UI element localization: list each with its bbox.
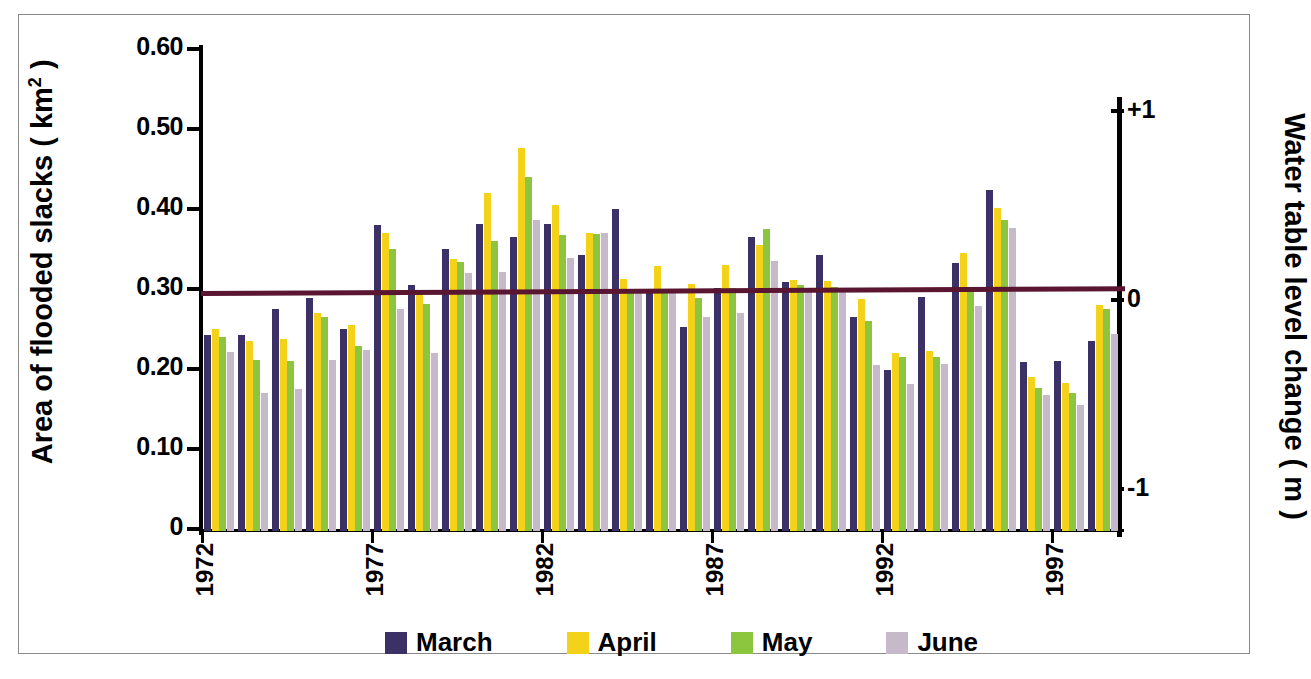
bar-may-1991 — [865, 321, 872, 531]
x-tick — [711, 530, 714, 543]
bar-april-1973 — [246, 341, 253, 531]
bar-june-1993 — [941, 364, 948, 531]
bar-june-1977 — [397, 309, 404, 531]
bar-may-1992 — [899, 357, 906, 531]
bar-may-1988 — [763, 229, 770, 531]
y-tick-label: 0 — [115, 512, 183, 541]
bar-may-1982 — [559, 235, 566, 531]
bar-april-1981 — [518, 148, 525, 531]
y-axis-title-pre: Area of flooded slacks ( km — [26, 87, 58, 464]
legend-swatch-april — [567, 632, 589, 654]
y2-tick-label: +1 — [1127, 95, 1156, 124]
bar-june-1972 — [227, 352, 234, 531]
bar-march-1982 — [544, 224, 551, 531]
bar-march-1984 — [612, 209, 619, 531]
bar-may-1986 — [695, 298, 702, 531]
chart-legend: MarchAprilMayJune — [385, 627, 978, 658]
y-axis-title-exponent: 2 — [25, 77, 45, 87]
bar-june-1980 — [499, 272, 506, 531]
bar-june-1989 — [805, 289, 812, 531]
bar-april-1979 — [450, 259, 457, 531]
figure-caption — [39, 678, 1269, 679]
bar-april-1990 — [824, 281, 831, 531]
bar-april-1997 — [1062, 383, 1069, 531]
bar-june-1979 — [465, 273, 472, 531]
bar-april-1983 — [586, 233, 593, 531]
bar-june-1985 — [669, 290, 676, 531]
y-axis-title: Area of flooded slacks ( km2 ) — [25, 27, 59, 497]
y-tick-label: 0.50 — [115, 112, 183, 141]
x-tick — [541, 530, 544, 543]
bar-may-1993 — [933, 357, 940, 531]
x-tick-label-1972: 1972 — [191, 543, 219, 596]
bar-april-1994 — [960, 253, 967, 531]
bar-april-1980 — [484, 193, 491, 531]
y-tick-label: 0.20 — [115, 352, 183, 381]
x-tick-label-1992: 1992 — [871, 543, 899, 596]
bar-april-1975 — [314, 313, 321, 531]
bar-march-1998 — [1088, 341, 1095, 531]
legend-swatch-may — [731, 632, 753, 654]
y-tick-label: 0.60 — [115, 32, 183, 61]
legend-item-march: March — [385, 627, 493, 658]
bar-may-1994 — [967, 289, 974, 531]
y-tick — [187, 47, 201, 51]
x-tick — [371, 530, 374, 543]
bar-june-1988 — [771, 261, 778, 531]
bar-may-1998 — [1103, 309, 1110, 531]
x-tick-label-1997: 1997 — [1041, 543, 1069, 596]
bar-june-1994 — [975, 306, 982, 531]
bar-march-1972 — [204, 335, 211, 531]
bar-march-1981 — [510, 237, 517, 531]
y2-tick-label: -1 — [1127, 473, 1149, 502]
legend-swatch-march — [385, 632, 407, 654]
bar-april-1998 — [1096, 305, 1103, 531]
x-tick — [1051, 530, 1054, 543]
bar-march-1991 — [850, 317, 857, 531]
y-tick-label: 0.40 — [115, 192, 183, 221]
bar-june-1990 — [839, 289, 846, 531]
y-tick — [187, 287, 201, 291]
bar-march-1977 — [374, 225, 381, 531]
x-tick-label-1987: 1987 — [701, 543, 729, 596]
y-tick-label: 0.30 — [115, 272, 183, 301]
bar-april-1984 — [620, 279, 627, 531]
legend-label-march: March — [416, 627, 493, 658]
bar-may-1987 — [729, 288, 736, 531]
bar-june-1975 — [329, 360, 336, 531]
bar-april-1974 — [280, 339, 287, 531]
bar-april-1978 — [416, 292, 423, 531]
bar-june-1991 — [873, 365, 880, 531]
bar-may-1996 — [1035, 388, 1042, 531]
bar-march-1992 — [884, 370, 891, 531]
bar-march-1997 — [1054, 361, 1061, 531]
bar-may-1973 — [253, 360, 260, 531]
bar-june-1987 — [737, 313, 744, 531]
bar-june-1974 — [295, 389, 302, 531]
bar-may-1972 — [219, 337, 226, 531]
y-tick-label: 0.10 — [115, 432, 183, 461]
bar-june-1983 — [601, 233, 608, 531]
bar-march-1973 — [238, 335, 245, 531]
bar-april-1972 — [212, 329, 219, 531]
bar-march-1985 — [646, 289, 653, 531]
bar-april-1989 — [790, 280, 797, 531]
bar-april-1993 — [926, 351, 933, 531]
figure-frame: Area of flooded slacks ( km2 ) Water tab… — [18, 14, 1250, 654]
bar-april-1987 — [722, 265, 729, 531]
y-axis-title-post: ) — [26, 59, 58, 77]
bar-march-1986 — [680, 327, 687, 531]
y-tick — [187, 207, 201, 211]
x-tick-label-1977: 1977 — [361, 543, 389, 596]
bar-june-1973 — [261, 393, 268, 531]
bar-march-1983 — [578, 255, 585, 531]
legend-label-april: April — [598, 627, 657, 658]
bar-june-1982 — [567, 258, 574, 531]
bar-march-1993 — [918, 297, 925, 531]
bar-may-1981 — [525, 177, 532, 531]
bar-june-1998 — [1111, 334, 1118, 531]
y-tick — [187, 127, 201, 131]
bar-may-1976 — [355, 346, 362, 531]
bar-may-1974 — [287, 361, 294, 531]
bar-april-1991 — [858, 299, 865, 531]
